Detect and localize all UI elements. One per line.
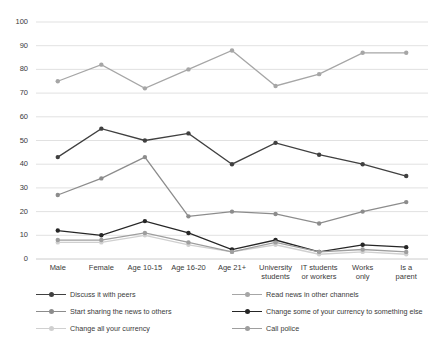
y-tick-60: 60 [4,112,28,121]
legend-label: Read news in other channels [266,290,359,299]
series-point [56,193,60,197]
y-tick-100: 100 [4,17,28,26]
x-category-label: Female [77,264,125,273]
y-tick-80: 80 [4,64,28,73]
y-tick-0: 0 [4,254,28,263]
series-point [56,79,60,83]
y-tick-70: 70 [4,88,28,97]
legend-marker-dot [49,309,54,314]
legend-marker-dot [49,326,54,331]
y-tick-40: 40 [4,159,28,168]
legend-label: Call police [266,324,299,333]
series-point [360,209,364,213]
series-point [273,141,277,145]
series-point [404,245,408,249]
series-point [273,240,277,244]
series-point [99,238,103,242]
series-point [99,176,103,180]
legend-marker-dot [245,309,250,314]
series-point [186,214,190,218]
series-point [186,231,190,235]
legend-label: Change some of your currency to somethin… [266,307,423,316]
series-point [404,51,408,55]
x-category-label: IT studentsor workers [295,264,343,281]
series-point [360,51,364,55]
series-point [360,243,364,247]
series-point [360,247,364,251]
series-point [273,212,277,216]
series-point [230,250,234,254]
series-point [230,209,234,213]
series-point [143,86,147,90]
series-line [58,129,406,176]
x-category-label: Male [34,264,82,273]
x-category-label: Age 21+ [208,264,256,273]
y-tick-10: 10 [4,230,28,239]
legend-label: Start sharing the news to others [70,307,171,316]
series-point [56,228,60,232]
chart-legend: Discuss it with peersRead news in other … [36,286,428,342]
chart-container: 0102030405060708090100 MaleFemaleAge 10-… [0,0,435,348]
legend-label: Discuss it with peers [70,290,136,299]
series-point [317,72,321,76]
legend-marker-dot [245,292,250,297]
legend-marker-dot [49,292,54,297]
legend-label: Change all your currency [70,324,150,333]
series-point [404,200,408,204]
x-category-label: Universitystudents [252,264,300,281]
series-point [143,231,147,235]
y-tick-30: 30 [4,183,28,192]
series-point [317,250,321,254]
series-point [230,162,234,166]
series-point [186,240,190,244]
series-point [143,155,147,159]
series-point [317,153,321,157]
series-point [273,84,277,88]
series-point [317,221,321,225]
series-point [99,233,103,237]
series-point [230,48,234,52]
legend-marker-dot [245,326,250,331]
series-point [404,250,408,254]
series-point [143,219,147,223]
series-point [56,238,60,242]
series-point [186,131,190,135]
series-point [99,126,103,130]
series-point [186,67,190,71]
y-tick-50: 50 [4,136,28,145]
x-category-label: Age 10-15 [121,264,169,273]
x-category-label: Worksonly [339,264,387,281]
series-line [58,221,406,252]
y-tick-20: 20 [4,207,28,216]
series-point [56,155,60,159]
series-point [143,138,147,142]
x-category-label: Is aparent [382,264,430,281]
series-point [404,174,408,178]
series-point [360,162,364,166]
series-point [99,62,103,66]
y-tick-90: 90 [4,41,28,50]
x-category-label: Age 16-20 [164,264,212,273]
